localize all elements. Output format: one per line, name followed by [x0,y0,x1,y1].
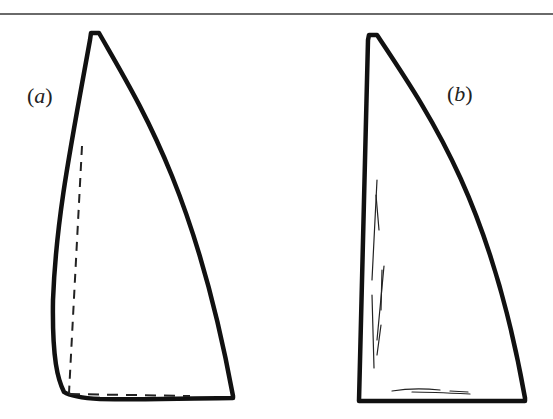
sail-figure [0,0,553,419]
sail-a [53,33,233,399]
sail-a-luff-reference-dashed [69,146,82,393]
sail-b-luff-creases [372,180,384,368]
panel-label-a: (a) [27,83,53,109]
sail-a-outline [53,33,233,399]
sail-a-foot-reference-dashed [69,394,190,396]
sail-b-outline [359,35,525,401]
panel-label-b: (b) [447,81,473,107]
sail-b-foot-creases [392,389,470,394]
sail-b [359,35,525,401]
